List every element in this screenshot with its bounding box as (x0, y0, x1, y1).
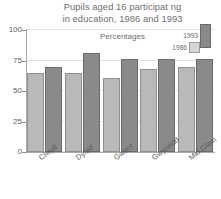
y-tick-mark-100 (22, 30, 26, 31)
y-tick-mark-25 (22, 122, 26, 123)
y-tick-mark-50 (22, 91, 26, 92)
bar-dyfed-1986 (65, 73, 82, 152)
legend-label-1993: 1993 (183, 32, 198, 39)
bar-clwyd-1993 (45, 67, 62, 152)
y-tick-label-50: 50 (2, 87, 22, 95)
bar-gwent-1986 (103, 78, 120, 152)
y-tick-label-100: 100 (2, 26, 22, 34)
y-tick-mark-75 (22, 61, 26, 62)
y-tick-label-25: 25 (2, 118, 22, 126)
legend-label-1986: 1986 (172, 44, 187, 51)
bar-clwyd-1986 (27, 73, 44, 152)
chart-title-line-2: in education, 1986 and 1993 (62, 14, 182, 24)
y-axis-line (26, 29, 27, 153)
y-tick-label-75: 75 (2, 57, 22, 65)
bar-gwynedd-1986 (140, 69, 157, 152)
chart-title: Pupils aged 16 participat ngin education… (30, 2, 215, 25)
y-tick-mark-0 (22, 152, 26, 153)
y-tick-label-0: 0 (2, 148, 22, 156)
legend-item-1986: 1986 (172, 42, 200, 53)
legend-swatch-1993 (200, 24, 211, 48)
chart-title-line-1: Pupils aged 16 participat ng (64, 2, 182, 12)
chart-legend: 1993 1986 (163, 30, 211, 56)
legend-item-1993: 1993 (183, 30, 211, 41)
bar-dyfed-1993 (83, 53, 100, 152)
bar-chart: Pupils aged 16 participat ngin education… (0, 0, 221, 199)
bar-gwent-1993 (121, 59, 138, 152)
bar-mid-glam-1986 (178, 67, 195, 152)
legend-swatch-1986 (189, 42, 200, 53)
